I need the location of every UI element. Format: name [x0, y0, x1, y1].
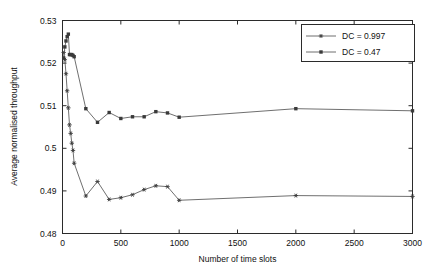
data-point-marker: [84, 107, 87, 110]
y-tick-label: 0.51: [40, 101, 57, 111]
data-point-marker: [131, 115, 134, 118]
data-point-marker: [411, 109, 414, 112]
data-point-marker: [177, 116, 180, 119]
x-tick-label: 1000: [170, 238, 189, 248]
data-point-marker: [96, 121, 99, 124]
data-point-marker: [166, 111, 169, 114]
data-point-marker: [72, 55, 75, 58]
x-tick-label: 0: [60, 238, 65, 248]
x-tick-label: 1500: [228, 238, 247, 248]
chart-canvas: 050010001500200025003000 0.480.490.50.51…: [0, 0, 430, 277]
chart-figure: 050010001500200025003000 0.480.490.50.51…: [0, 0, 430, 277]
data-point-marker: [107, 111, 110, 114]
chart-legend: DC = 0.997DC = 0.47: [302, 25, 415, 62]
x-tick-label: 2500: [345, 238, 364, 248]
data-point-marker: [142, 115, 145, 118]
x-tick-label: 500: [114, 238, 128, 248]
data-point-marker: [294, 107, 297, 110]
data-point-marker: [64, 39, 67, 42]
y-tick-label: 0.5: [45, 143, 57, 153]
data-point-marker: [62, 56, 65, 59]
y-axis-title: Average normalised throughput: [9, 67, 19, 186]
y-tick-label: 0.53: [40, 16, 57, 26]
legend-label: DC = 0.997: [342, 31, 386, 41]
y-tick-label: 0.52: [40, 58, 57, 68]
y-tick-label: 0.48: [40, 229, 57, 239]
x-tick-label: 3000: [403, 238, 422, 248]
data-point-marker: [119, 117, 122, 120]
x-tick-label: 2000: [286, 238, 305, 248]
data-point-marker: [63, 45, 66, 48]
data-point-marker: [67, 32, 70, 35]
data-point-marker: [319, 50, 322, 53]
y-tick-label: 0.49: [40, 186, 57, 196]
legend-label: DC = 0.47: [342, 47, 381, 57]
x-axis-title: Number of time slots: [199, 254, 277, 264]
data-point-marker: [154, 110, 157, 113]
